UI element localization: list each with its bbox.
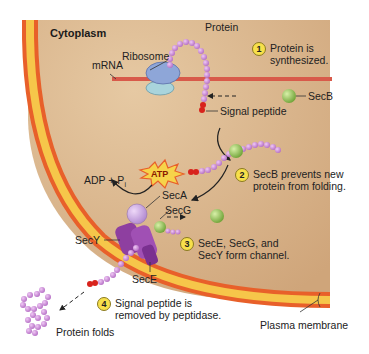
ribosome-label: Ribosome <box>122 50 169 62</box>
secg-label: SecG <box>165 204 191 216</box>
adp-pi-subscript: i <box>124 181 126 188</box>
seca-label: SecA <box>162 189 187 201</box>
step-4: 4 Signal peptide isremoved by peptidase. <box>97 297 221 321</box>
sece-label: SecE <box>132 273 157 285</box>
adp-pi-label: ADP + Pi <box>84 174 126 191</box>
mrna-label: mRNA <box>92 59 123 71</box>
plasma-membrane-label: Plasma membrane <box>260 319 348 331</box>
step-1: 1 Protein issynthesized. <box>252 42 328 66</box>
step-4-number: 4 <box>97 297 111 311</box>
atp-label: ATP <box>151 169 168 179</box>
step-2-number: 2 <box>235 168 249 182</box>
signal-peptide-label: Signal peptide <box>220 105 287 117</box>
step-3-number: 3 <box>180 237 194 251</box>
step-1-number: 1 <box>252 42 266 56</box>
cytoplasm-label: Cytoplasm <box>50 27 106 39</box>
step-3-text: SecE, SecG, andSecY form channel. <box>198 237 289 261</box>
protein-folds-label: Protein folds <box>56 326 114 338</box>
step-4-text: Signal peptide isremoved by peptidase. <box>115 297 221 321</box>
adp-pi-text: ADP + P <box>84 174 124 186</box>
step-2-text: SecB prevents newprotein from folding. <box>253 168 346 192</box>
step-2: 2 SecB prevents newprotein from folding. <box>235 168 346 192</box>
secb-label: SecB <box>308 90 333 102</box>
step-1-text: Protein issynthesized. <box>270 42 328 66</box>
step-3: 3 SecE, SecG, andSecY form channel. <box>180 237 289 261</box>
secy-label: SecY <box>75 234 100 246</box>
protein-label: Protein <box>205 21 238 33</box>
folded-protein <box>20 287 51 336</box>
